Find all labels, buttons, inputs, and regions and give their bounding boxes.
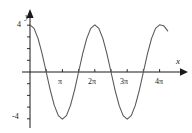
x-tick-label-3pi: 3π (120, 78, 128, 86)
y-tick-label-4: 4 (17, 21, 21, 29)
cosine-graph-figure: y x 4 -4 π 2π 3π 4π (0, 0, 192, 133)
x-tick-label-pi: π (58, 78, 62, 86)
y-axis-label: y (25, 12, 29, 21)
x-tick-label-4pi: 4π (155, 78, 163, 86)
x-axis-label: x (176, 57, 180, 66)
y-tick-label-minus-4: -4 (12, 113, 19, 121)
x-axis-arrowhead (180, 68, 188, 76)
x-tick-label-2pi: 2π (88, 78, 96, 86)
